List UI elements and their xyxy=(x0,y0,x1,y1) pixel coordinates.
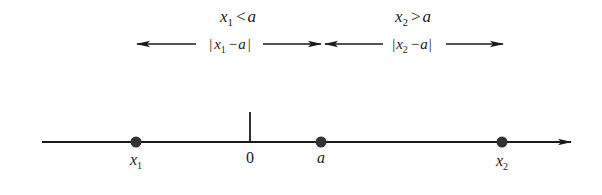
number-line-diagram: x1<a x2>a |x1−a| |x2−a| x1 0 a x2 xyxy=(0,0,602,195)
subscript-1: 1 xyxy=(227,16,233,28)
svg-text:x2>a: x2>a xyxy=(394,7,431,28)
point-a xyxy=(316,137,327,148)
label-x1: x1 xyxy=(129,151,142,171)
point-x1 xyxy=(131,137,142,148)
svg-text:x1<a: x1<a xyxy=(219,7,256,28)
distance-x2-to-a: |x2−a| xyxy=(325,36,503,55)
label-x2: x2 xyxy=(495,152,508,172)
var-a: a xyxy=(423,7,432,26)
greater-than-sign: > xyxy=(411,7,421,26)
distance-label-x1: |x1−a| xyxy=(209,36,251,55)
point-x2 xyxy=(497,137,508,148)
label-origin: 0 xyxy=(246,149,254,166)
subscript-2: 2 xyxy=(402,16,408,28)
condition-x1-less-than-a: x1<a xyxy=(219,7,256,28)
less-than-sign: < xyxy=(236,7,246,26)
var-a: a xyxy=(248,7,257,26)
distance-label-x2: |x2−a| xyxy=(392,36,432,55)
condition-x2-greater-than-a: x2>a xyxy=(394,7,431,28)
label-a: a xyxy=(317,149,325,166)
distance-x1-to-a: |x1−a| xyxy=(137,36,321,55)
